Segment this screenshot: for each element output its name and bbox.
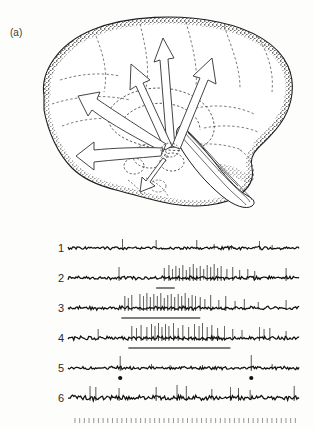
panel-a-label: (a) (10, 27, 22, 38)
trace-label-4: 4 (52, 332, 64, 344)
brain-sagittal-svg (0, 0, 314, 222)
trace-baseline (68, 366, 299, 369)
trace-baseline (68, 395, 299, 401)
trace-4 (68, 323, 299, 348)
trace-5 (68, 355, 299, 380)
trace-baseline (68, 246, 299, 249)
event-dot-marker (118, 376, 122, 380)
electrophysiology-traces-svg (0, 222, 314, 427)
trace-3 (68, 293, 299, 318)
trace-label-2: 2 (52, 272, 64, 284)
trace-2 (68, 264, 299, 288)
trace-label-5: 5 (52, 362, 64, 374)
trace-label-6: 6 (52, 392, 64, 404)
trace-1 (68, 239, 299, 250)
trace-baseline (68, 276, 299, 280)
figure-container: (a) (0, 0, 314, 427)
time-calibration-row (75, 418, 295, 423)
trace-baseline (68, 306, 299, 310)
trace-label-3: 3 (52, 302, 64, 314)
event-dot-marker (249, 376, 253, 380)
panel-a-brain-drawing: (a) (0, 0, 314, 222)
trace-6 (68, 385, 299, 401)
trace-baseline (68, 336, 299, 340)
panel-b-traces: (b) 1 2 3 4 5 6 (0, 222, 314, 427)
trace-label-1: 1 (52, 242, 64, 254)
